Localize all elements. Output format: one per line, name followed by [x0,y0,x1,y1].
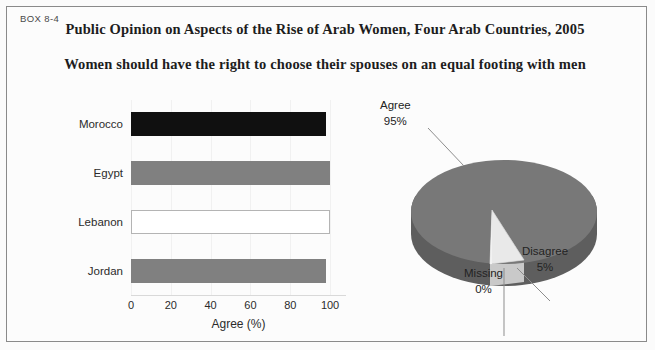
pie-chart: Agree 95% Disagree 5% Missing 0% [372,96,642,336]
figure-subtitle: Women should have the right to choose th… [55,56,595,73]
bar-x-axis-line [131,295,346,296]
box-number-label: BOX 8-4 [20,13,59,24]
bar-x-tick-label: 60 [244,299,256,311]
bar-x-tick-label: 40 [205,299,217,311]
bar-category-label: Morocco [79,118,123,130]
bar-x-tick-label: 0 [128,299,134,311]
pie-label-disagree: Disagree 5% [522,244,568,275]
bar-rect [131,259,326,283]
bar-row: Egypt [131,149,346,198]
bar-rect [131,112,326,136]
bar-chart: MoroccoEgyptLebanonJordan 020406080100 A… [44,96,364,332]
pie-label-missing: Missing 0% [464,266,503,297]
pie-label-agree-text: Agree [380,99,411,111]
bar-category-label: Jordan [88,265,123,277]
pie-label-missing-text: Missing [464,267,503,279]
pie-label-disagree-value: 5% [522,260,568,276]
bar-row: Morocco [131,100,346,149]
bar-row: Jordan [131,246,346,295]
bar-x-tick-label: 100 [321,299,339,311]
bar-category-label: Egypt [94,167,123,179]
pie-label-disagree-text: Disagree [522,245,568,257]
bar-x-tick-label: 80 [284,299,296,311]
pie-label-missing-value: 0% [464,282,503,298]
pie-chart-svg [372,96,642,336]
pie-label-agree: Agree 95% [380,98,411,129]
bar-rect [131,161,330,185]
callout-line-agree [428,128,464,166]
bar-x-axis-title: Agree (%) [131,317,346,331]
bar-row: Lebanon [131,198,346,247]
bar-rect [131,210,330,234]
bar-plot-area: MoroccoEgyptLebanonJordan [131,100,346,295]
bar-category-label: Lebanon [78,216,123,228]
pie-label-agree-value: 95% [380,114,411,130]
bar-x-tick-label: 20 [165,299,177,311]
figure-title: Public Opinion on Aspects of the Rise of… [60,21,590,38]
box-figure-page: BOX 8-4 Public Opinion on Aspects of the… [0,0,655,350]
